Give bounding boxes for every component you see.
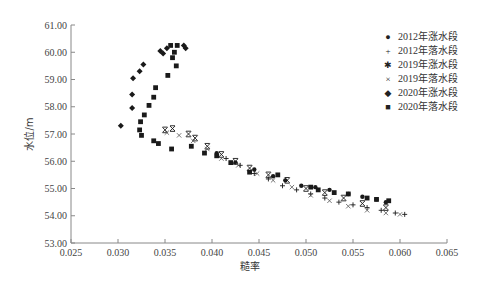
x-marker-icon — [290, 185, 294, 189]
diamond-marker-icon — [129, 105, 135, 111]
square-marker-icon: ■ — [382, 100, 394, 114]
legend-label: 2019年落水段 — [398, 72, 458, 86]
y-tick-label: 55.00 — [45, 183, 68, 194]
asterisk-marker-icon — [322, 190, 327, 196]
x-tick-label: 0.040 — [201, 247, 224, 258]
asterisk-marker-icon: ✱ — [382, 58, 394, 72]
x-tick-label: 0.035 — [154, 247, 177, 258]
square-marker-icon — [386, 198, 391, 203]
asterisk-marker-icon — [360, 201, 365, 207]
x-marker-icon — [177, 133, 181, 137]
square-marker-icon — [275, 172, 280, 177]
asterisk-marker-icon — [193, 135, 198, 141]
y-tick-label: 57.00 — [45, 129, 68, 140]
series-circle — [215, 151, 389, 204]
square-marker-icon — [202, 151, 207, 156]
y-tick-label: 54.00 — [45, 210, 68, 221]
square-marker-icon — [142, 113, 147, 118]
square-marker-icon — [174, 63, 179, 68]
circle-marker-icon: ● — [382, 30, 394, 44]
y-tick-label: 58.00 — [45, 101, 68, 112]
asterisk-marker-icon — [170, 126, 175, 132]
legend: ● 2012年涨水段 + 2012年落水段 ✱ 2019年涨水段 × 2019年… — [382, 30, 458, 114]
square-marker-icon — [175, 43, 180, 48]
square-marker-icon — [374, 197, 379, 202]
circle-marker-icon — [271, 174, 275, 178]
square-marker-icon — [165, 73, 170, 78]
x-marker-icon — [384, 211, 388, 215]
y-tick-label: 56.00 — [45, 156, 68, 167]
square-marker-icon — [151, 95, 156, 100]
circle-marker-icon — [360, 194, 364, 198]
plus-marker-icon — [336, 200, 341, 205]
plus-marker-icon: + — [382, 44, 394, 58]
square-marker-icon — [332, 190, 337, 195]
legend-item-2012-falling: + 2012年落水段 — [382, 44, 458, 58]
square-marker-icon — [365, 196, 370, 201]
asterisk-marker-icon — [304, 186, 309, 192]
square-marker-icon — [153, 85, 158, 90]
plus-marker-icon — [280, 183, 285, 188]
x-tick-label: 0.060 — [389, 247, 412, 258]
square-marker-icon — [228, 160, 233, 165]
asterisk-marker-icon — [205, 143, 210, 149]
legend-item-2012-rising: ● 2012年涨水段 — [382, 30, 458, 44]
y-tick-label: 61.00 — [45, 20, 68, 31]
series-x — [165, 130, 403, 216]
series-square — [137, 43, 391, 203]
legend-label: 2012年落水段 — [398, 44, 458, 58]
asterisk-marker-icon — [383, 205, 388, 211]
square-marker-icon — [247, 170, 252, 175]
y-tick-label: 53.00 — [45, 238, 68, 249]
plus-marker-icon — [252, 171, 257, 176]
diamond-marker-icon: ◆ — [382, 86, 394, 100]
x-tick-label: 0.030 — [107, 247, 130, 258]
y-tick-label: 59.00 — [45, 74, 68, 85]
square-marker-icon — [139, 133, 144, 138]
circle-marker-icon — [327, 188, 331, 192]
asterisk-marker-icon — [186, 131, 191, 137]
diamond-marker-icon — [130, 75, 136, 81]
square-marker-icon — [151, 138, 156, 143]
legend-label: 2020年涨水段 — [398, 86, 458, 100]
plus-marker-icon — [393, 211, 398, 216]
square-marker-icon — [346, 192, 351, 197]
square-marker-icon — [316, 187, 321, 192]
x-marker-icon: × — [382, 72, 394, 86]
x-tick-label: 0.065 — [436, 247, 459, 258]
legend-item-2020-rising: ◆ 2020年涨水段 — [382, 86, 458, 100]
legend-label: 2012年涨水段 — [398, 30, 458, 44]
series-asterisk — [163, 126, 389, 211]
legend-label: 2019年涨水段 — [398, 58, 458, 72]
plus-marker-icon — [294, 187, 299, 192]
legend-item-2020-falling: ■ 2020年落水段 — [382, 100, 458, 114]
y-axis-title: 水位/m — [23, 117, 35, 150]
x-marker-icon — [327, 199, 331, 203]
square-marker-icon — [137, 128, 142, 133]
x-marker-icon — [398, 212, 402, 216]
plus-marker-icon — [351, 202, 356, 207]
square-marker-icon — [189, 144, 194, 149]
diamond-marker-icon — [140, 62, 146, 68]
square-marker-icon — [147, 103, 152, 108]
square-marker-icon — [172, 50, 177, 55]
circle-marker-icon — [299, 184, 303, 188]
diamond-marker-icon — [118, 123, 124, 129]
asterisk-marker-icon — [341, 195, 346, 201]
x-tick-label: 0.025 — [60, 247, 83, 258]
square-marker-icon — [138, 119, 143, 124]
data-points — [118, 42, 407, 216]
square-marker-icon — [168, 43, 173, 48]
square-marker-icon — [308, 185, 313, 190]
circle-marker-icon — [252, 167, 256, 171]
square-marker-icon — [170, 55, 175, 60]
x-tick-label: 0.045 — [248, 247, 271, 258]
legend-item-2019-falling: × 2019年落水段 — [382, 72, 458, 86]
plus-marker-icon — [365, 205, 370, 210]
y-tick-label: 60.00 — [45, 47, 68, 58]
x-marker-icon — [346, 204, 350, 208]
asterisk-marker-icon — [163, 127, 168, 133]
plus-marker-icon — [379, 208, 384, 213]
square-marker-icon — [156, 141, 161, 146]
plus-marker-icon — [402, 212, 407, 217]
